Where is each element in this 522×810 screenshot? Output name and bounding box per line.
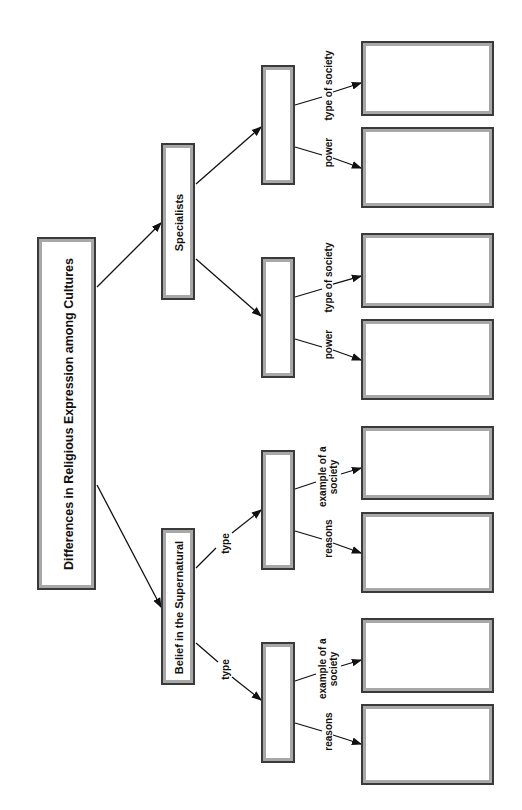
leaf-example-1[interactable] — [361, 426, 494, 500]
edge-label-reasons: reasons — [323, 707, 334, 757]
branch-node-belief: Belief in the Supernatural — [161, 528, 195, 685]
arrow-root-to-specialists — [97, 223, 161, 287]
edge-label-line: example of a — [317, 639, 328, 699]
arrow-reasons-a — [295, 531, 322, 539]
specialists-sub-node-2[interactable] — [261, 257, 295, 378]
root-node: Differences in Religious Expression amon… — [37, 237, 96, 590]
edge-label-example-of-a-society: example of a society — [317, 447, 339, 507]
edge-label-example-of-a-society: example of a society — [317, 639, 339, 699]
arrow-example-a — [295, 482, 316, 489]
specialists-sub-node-1[interactable] — [261, 65, 295, 185]
edge-label-type-of-society: type of society — [323, 238, 334, 318]
edge-label-line: society — [328, 639, 339, 699]
arrow-power-a — [295, 147, 322, 155]
edge-label-power: power — [323, 325, 334, 365]
arrow-type-of-society-b — [333, 276, 361, 284]
arrow-belief-to-type2-a — [196, 643, 218, 662]
root-title: Differences in Religious Expression amon… — [62, 238, 76, 591]
arrow-type-of-society-b — [333, 83, 361, 92]
belief-sub-node-2[interactable] — [261, 642, 295, 763]
arrow-example-a — [295, 674, 316, 681]
branch-label-belief: Belief in the Supernatural — [174, 529, 185, 686]
arrow-power-b — [333, 350, 361, 360]
edge-label-type: type — [220, 524, 231, 564]
leaf-example-2[interactable] — [361, 618, 494, 693]
arrow-specialists-to-sub2 — [196, 259, 261, 316]
arrow-reasons-b — [333, 543, 361, 553]
edge-label-type: type — [220, 650, 231, 690]
arrow-type-of-society-a — [295, 289, 322, 297]
edge-label-line: example of a — [317, 447, 328, 507]
arrow-reasons-a — [295, 723, 322, 731]
arrow-power-b — [333, 158, 361, 168]
arrow-belief-to-type1-b — [232, 510, 261, 533]
leaf-type-of-society-2[interactable] — [361, 233, 494, 308]
leaf-reasons-2[interactable] — [361, 704, 494, 785]
arrow-example-b — [341, 660, 361, 666]
branch-node-specialists: Specialists — [161, 143, 195, 300]
edge-label-type-of-society: type of society — [323, 46, 334, 126]
arrow-root-to-belief — [97, 485, 161, 607]
belief-sub-node-1[interactable] — [261, 450, 295, 570]
branch-label-specialists: Specialists — [174, 144, 185, 301]
arrow-example-b — [341, 468, 361, 474]
arrow-specialists-to-sub1 — [196, 127, 261, 184]
leaf-power-2[interactable] — [361, 319, 494, 400]
arrow-type-of-society-a — [295, 97, 322, 105]
leaf-power-1[interactable] — [361, 127, 494, 208]
leaf-type-of-society-1[interactable] — [361, 41, 494, 116]
edge-label-power: power — [323, 133, 334, 173]
arrow-belief-to-type2-b — [232, 677, 261, 700]
arrow-power-a — [295, 339, 322, 347]
leaf-reasons-1[interactable] — [361, 512, 494, 593]
arrow-reasons-b — [333, 735, 361, 744]
edge-label-reasons: reasons — [323, 514, 334, 564]
arrow-belief-to-type1-a — [196, 548, 216, 568]
edge-label-line: society — [328, 447, 339, 507]
